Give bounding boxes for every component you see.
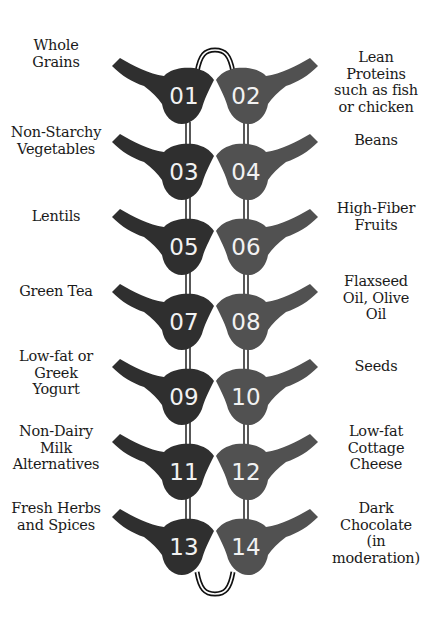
item-05-label: Lentils (0, 208, 126, 225)
item-07-label: Green Tea (0, 283, 126, 300)
item-08-number: 08 (231, 309, 260, 335)
item-13-number: 13 (169, 534, 198, 560)
bottom-arch-connector (197, 572, 233, 594)
item-09-number: 09 (169, 384, 198, 410)
item-04-label: Beans (306, 132, 431, 149)
item-03-label: Non-Starchy Vegetables (0, 124, 126, 157)
item-05-shape (112, 209, 214, 275)
item-09-label: Low-fat or Greek Yogurt (0, 348, 126, 398)
item-10-label: Seeds (306, 358, 431, 375)
item-10-number: 10 (231, 384, 260, 410)
item-08-label: Flaxseed Oil, Olive Oil (306, 273, 431, 323)
item-14-number: 14 (231, 534, 260, 560)
item-02-label: Lean Proteins such as fish or chicken (306, 49, 431, 115)
item-03-shape (112, 134, 214, 200)
item-02-number: 02 (231, 83, 260, 109)
item-13-shape (112, 509, 214, 575)
item-11-number: 11 (169, 459, 198, 485)
item-11-label: Non-Dairy Milk Alternatives (0, 423, 126, 473)
item-11-shape (112, 434, 214, 500)
item-03-number: 03 (169, 159, 198, 185)
item-06-number: 06 (231, 234, 260, 260)
item-14-label: Dark Chocolate (in moderation) (306, 500, 431, 566)
top-arch-connector (197, 50, 233, 72)
item-06-label: High-Fiber Fruits (306, 200, 431, 233)
item-04-number: 04 (231, 159, 260, 185)
item-01-number: 01 (169, 83, 198, 109)
item-07-number: 07 (169, 309, 198, 335)
item-07-shape (112, 284, 214, 350)
item-13-label: Fresh Herbs and Spices (0, 500, 126, 533)
item-05-number: 05 (169, 234, 198, 260)
item-01-label: Whole Grains (0, 37, 126, 70)
item-12-label: Low-fat Cottage Cheese (306, 423, 431, 473)
item-12-number: 12 (231, 459, 260, 485)
food-list-diagram: 01 02 03 04 05 06 07 08 09 10 11 12 13 1… (0, 0, 431, 626)
item-09-shape (112, 359, 214, 425)
